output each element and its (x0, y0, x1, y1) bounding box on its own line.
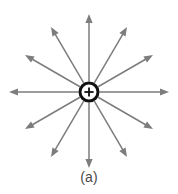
field-vector-down-right-shallow (98, 97, 153, 129)
arrow-head-icon (85, 159, 92, 168)
field-vector-down (85, 103, 92, 169)
figure-caption: (a) (0, 168, 178, 186)
field-vector-left (9, 88, 79, 95)
charge-marker (80, 83, 98, 101)
field-vector-down-left-shallow (25, 97, 80, 129)
arrow-head-icon (25, 55, 35, 63)
arrow-head-icon (51, 27, 59, 37)
arrow-head-icon (85, 14, 92, 23)
field-diagram-canvas (0, 0, 178, 178)
field-vector-up-left-shallow (25, 55, 80, 87)
arrow-head-icon (160, 88, 169, 95)
arrow-head-icon (143, 55, 153, 63)
field-vector-up-right-shallow (98, 55, 153, 87)
arrow-head-icon (9, 88, 18, 95)
field-vector-down-right-steep (94, 101, 127, 157)
field-vector-right (100, 88, 170, 95)
arrow-head-icon (119, 27, 127, 37)
arrow-head-icon (51, 147, 59, 157)
field-vector-up-left-steep (51, 27, 84, 83)
arrow-head-icon (25, 121, 35, 129)
field-vector-down-left-steep (51, 101, 84, 157)
arrow-head-icon (119, 147, 127, 157)
field-vector-up-right-steep (94, 27, 127, 83)
electric-field-figure: (a) (0, 0, 178, 194)
field-vector-up (85, 14, 92, 82)
arrow-head-icon (143, 121, 153, 129)
